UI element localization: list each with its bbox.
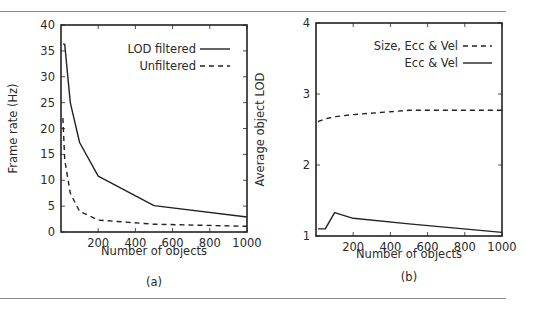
series-line xyxy=(318,110,502,121)
chart-frame-rate: 05101520253035402004006008001000Number o… xyxy=(0,0,268,300)
y-axis-label: Frame rate (Hz) xyxy=(6,83,20,173)
y-tick-label: 10 xyxy=(40,173,55,187)
y-tick-label: 0 xyxy=(48,225,55,239)
legend-label: LOD filtered xyxy=(128,42,196,56)
subfigure-caption: (b) xyxy=(401,270,417,284)
y-tick-label: 5 xyxy=(48,199,55,213)
series-line xyxy=(318,213,502,233)
y-tick-label: 30 xyxy=(40,70,55,84)
legend-label: Ecc & Vel xyxy=(405,56,458,70)
y-tick-label: 2 xyxy=(303,158,310,172)
x-tick-label: 1000 xyxy=(487,240,516,254)
figure: 05101520253035402004006008001000Number o… xyxy=(0,0,536,311)
x-axis-label: Number of objects xyxy=(356,247,462,261)
y-tick-label: 25 xyxy=(40,96,55,110)
x-axis-label: Number of objects xyxy=(101,244,207,258)
series-line xyxy=(63,118,247,226)
y-tick-label: 3 xyxy=(303,87,310,101)
chart-average-lod: 12342004006008001000Number of objectsAve… xyxy=(254,0,522,300)
y-tick-label: 1 xyxy=(303,229,310,243)
y-tick-label: 40 xyxy=(40,18,55,32)
bottom-rule xyxy=(0,298,506,299)
subfigure-caption: (a) xyxy=(146,275,162,289)
plot-area-frame xyxy=(316,23,502,236)
legend-label: Size, Ecc & Vel xyxy=(374,39,458,53)
legend-label: Unfiltered xyxy=(139,59,196,73)
plot-area-frame xyxy=(61,25,247,232)
y-tick-label: 20 xyxy=(40,122,55,136)
y-tick-label: 35 xyxy=(40,44,55,58)
y-axis-label: Average object LOD xyxy=(254,72,267,186)
y-tick-label: 4 xyxy=(303,16,310,30)
y-tick-label: 15 xyxy=(40,147,55,161)
